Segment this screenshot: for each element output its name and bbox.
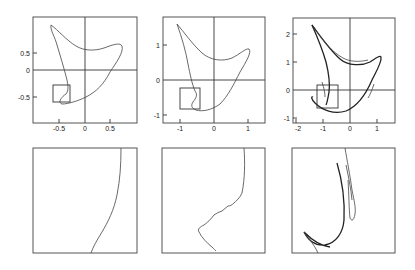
orbit-curve — [177, 24, 250, 111]
panel-bottom-middle — [162, 148, 265, 253]
x-tick-label: 0 — [212, 125, 216, 132]
attractor-fold — [314, 27, 374, 98]
x-tick-label: -2 — [295, 125, 301, 132]
plot-frame — [293, 18, 395, 123]
zoom-inset-box — [180, 88, 200, 109]
panel-bottom-right — [292, 148, 395, 253]
y-tick-label: -1 — [154, 112, 160, 119]
plot-frame — [33, 148, 137, 253]
magnified-fold-outer — [345, 148, 355, 220]
attractor-curve — [312, 25, 381, 112]
x-tick-label: 0 — [348, 125, 352, 132]
orbit-curve — [51, 25, 122, 104]
y-tick-label: -0.5 — [18, 94, 30, 101]
magnified-curve — [91, 148, 121, 253]
x-tick-label: 0.5 — [105, 125, 115, 132]
y-tick-label: 0 — [156, 77, 160, 84]
x-tick-label: -1 — [177, 125, 183, 132]
panel-bottom-left — [33, 148, 137, 253]
y-tick-label: 0.5 — [20, 50, 30, 57]
panel-top-right: 2 1 0 -1 -2 -1 0 1 — [284, 18, 395, 132]
x-tick-label: 1 — [375, 125, 379, 132]
x-tick-label: 0 — [83, 125, 87, 132]
panel-top-left: 0.5 0 -0.5 -0.5 0 0.5 — [18, 17, 137, 132]
plot-frame — [162, 148, 265, 253]
magnified-fold-middle — [304, 163, 344, 247]
y-tick-label: 1 — [286, 59, 290, 66]
y-tick-label: 1 — [156, 42, 160, 49]
zoom-inset-box — [317, 85, 338, 108]
magnified-curve — [198, 148, 244, 251]
y-tick-label: -1 — [284, 115, 290, 122]
y-tick-label: 2 — [286, 31, 290, 38]
y-tick-label: 0 — [26, 67, 30, 74]
y-tick-label: 0 — [286, 87, 290, 94]
x-tick-label: -0.5 — [53, 125, 65, 132]
x-tick-label: -1 — [320, 125, 326, 132]
panel-top-middle: 1 0 -1 -1 0 1 — [154, 17, 265, 132]
figure: 0.5 0 -0.5 -0.5 0 0.5 1 0 -1 -1 0 1 — [0, 0, 415, 270]
x-tick-label: 1 — [246, 125, 250, 132]
